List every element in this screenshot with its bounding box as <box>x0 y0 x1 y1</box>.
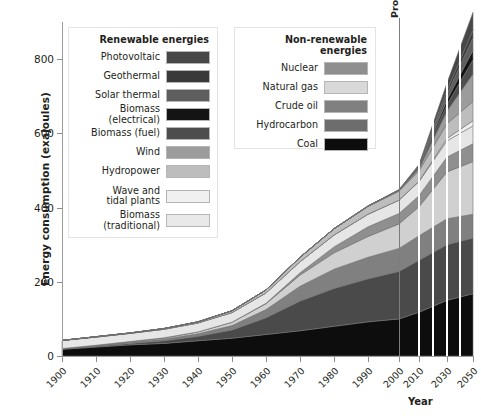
legend-color-swatch <box>166 146 210 159</box>
x-tick-mark <box>368 357 369 362</box>
x-axis-line <box>62 356 474 357</box>
legend-item-label: Wave and tidal plants <box>106 186 160 207</box>
legend-item-label: Hydropower <box>102 166 160 177</box>
x-tick-mark <box>334 357 335 362</box>
legend-item-natural-gas[interactable]: Natural gas <box>235 78 375 97</box>
legend-color-swatch <box>324 138 368 151</box>
legend-item-label: Coal <box>297 139 318 150</box>
y-tick-mark <box>57 59 62 60</box>
legend-renewable-title: Renewable energies <box>69 34 217 45</box>
legend-color-swatch <box>166 70 210 83</box>
legend-item-biomass-traditional[interactable]: Biomass (traditional) <box>69 211 217 230</box>
legend-color-swatch <box>166 214 210 227</box>
legend-item-photovoltaic[interactable]: Photovoltaic <box>69 48 217 67</box>
legend-item-label: Biomass (electrical) <box>69 104 160 125</box>
y-tick-label: 0 <box>8 351 54 361</box>
projected-annotation: Projected <box>389 0 400 18</box>
legend-item-label: Nuclear <box>281 63 318 74</box>
x-tick-mark <box>399 357 400 362</box>
x-tick-mark <box>266 357 267 362</box>
legend-item-coal[interactable]: Coal <box>235 135 375 154</box>
legend-item-crude-oil[interactable]: Crude oil <box>235 97 375 116</box>
y-axis-title: Energy consumption (exajoules) <box>39 59 51 319</box>
legend-item-label: Biomass (traditional) <box>69 210 160 231</box>
x-tick-mark <box>164 357 165 362</box>
x-tick-mark <box>198 357 199 362</box>
x-tick-mark <box>62 357 63 362</box>
legend-renewable-rows: PhotovoltaicGeothermalSolar thermalBioma… <box>69 48 217 230</box>
legend-item-wave-and-tidal-plants[interactable]: Wave and tidal plants <box>69 181 217 211</box>
legend-nonrenewable-rows: NuclearNatural gasCrude oilHydrocarbonCo… <box>235 59 375 154</box>
legend-item-label: Crude oil <box>275 101 318 112</box>
legend-nonrenewable-title: Non-renewable energies <box>235 34 375 56</box>
legend-color-swatch <box>166 190 210 203</box>
legend-color-swatch <box>324 81 368 94</box>
x-tick-mark <box>232 357 233 362</box>
legend-color-swatch <box>324 62 368 75</box>
legend-item-label: Solar thermal <box>95 90 160 101</box>
y-axis-line <box>62 22 63 356</box>
legend-item-hydropower[interactable]: Hydropower <box>69 162 217 181</box>
legend-color-swatch <box>166 108 210 121</box>
legend-item-hydrocarbon[interactable]: Hydrocarbon <box>235 116 375 135</box>
x-tick-mark <box>300 357 301 362</box>
x-axis-title: Year <box>408 396 433 407</box>
legend-renewable-energies: Renewable energies PhotovoltaicGeotherma… <box>68 27 218 238</box>
x-tick-mark <box>473 357 474 362</box>
y-tick-mark <box>57 133 62 134</box>
legend-color-swatch <box>166 127 210 140</box>
y-tick-mark <box>57 208 62 209</box>
legend-color-swatch <box>166 165 210 178</box>
legend-item-label: Natural gas <box>263 82 318 93</box>
legend-color-swatch <box>324 119 368 132</box>
x-tick-mark <box>419 357 420 362</box>
y-tick-mark <box>57 282 62 283</box>
legend-color-swatch <box>166 51 210 64</box>
legend-color-swatch <box>324 100 368 113</box>
legend-item-geothermal[interactable]: Geothermal <box>69 67 217 86</box>
legend-item-biomass-fuel[interactable]: Biomass (fuel) <box>69 124 217 143</box>
legend-item-label: Geothermal <box>103 71 160 82</box>
legend-item-label: Biomass (fuel) <box>91 128 160 139</box>
legend-nonrenewable-energies: Non-renewable energies NuclearNatural ga… <box>234 27 376 149</box>
legend-item-wind[interactable]: Wind <box>69 143 217 162</box>
energy-consumption-chart: 0200400600800 19001910192019301940195019… <box>0 0 481 416</box>
x-tick-mark <box>447 357 448 362</box>
legend-item-label: Wind <box>136 147 160 158</box>
legend-item-biomass-electrical[interactable]: Biomass (electrical) <box>69 105 217 124</box>
legend-item-label: Photovoltaic <box>101 52 160 63</box>
x-tick-mark <box>96 357 97 362</box>
x-tick-mark <box>130 357 131 362</box>
projected-divider-line <box>399 18 400 356</box>
legend-item-nuclear[interactable]: Nuclear <box>235 59 375 78</box>
legend-item-label: Hydrocarbon <box>256 120 318 131</box>
legend-color-swatch <box>166 89 210 102</box>
